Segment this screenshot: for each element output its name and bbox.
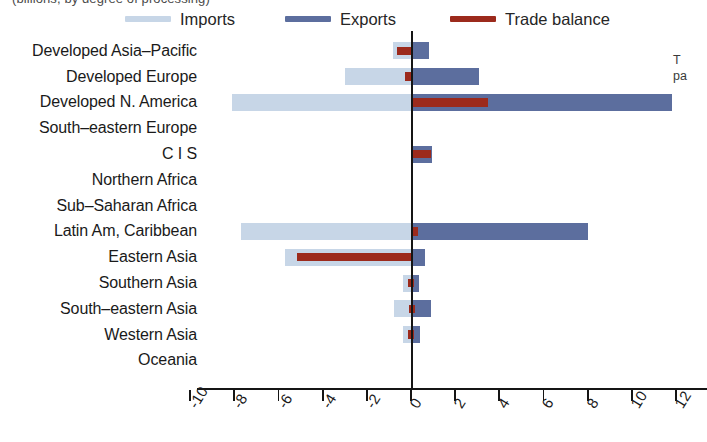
x-axis-tick-label: 8 (583, 395, 602, 411)
chart-row: Sub–Saharan Africa (0, 193, 707, 219)
legend-label-exports: Exports (340, 11, 396, 28)
legend-item-trade-balance: Trade balance (450, 11, 610, 28)
legend-swatch-trade-balance (450, 16, 496, 22)
chart-row: Western Asia (0, 322, 707, 348)
row-bars (0, 193, 707, 219)
legend-swatch-imports (125, 16, 171, 22)
row-bars (0, 348, 707, 374)
legend-item-exports: Exports (285, 11, 396, 28)
row-bars (0, 322, 707, 348)
bar-imports (345, 68, 411, 85)
chart-plot-area: Developed Asia–PacificDeveloped EuropeDe… (0, 38, 707, 390)
bar-trade-balance (397, 47, 412, 56)
chart-row: Oceania (0, 348, 707, 374)
x-axis-tick-label: 4 (494, 395, 513, 411)
chart-title-strip: (billions, by degree of processing) (0, 0, 707, 9)
chart-row: Northern Africa (0, 167, 707, 193)
zero-axis-line (411, 31, 413, 388)
row-bars (0, 64, 707, 90)
chart-row: C I S (0, 141, 707, 167)
row-bars (0, 270, 707, 296)
row-bars (0, 38, 707, 64)
row-bars (0, 296, 707, 322)
chart-row: South–eastern Asia (0, 296, 707, 322)
row-bars (0, 244, 707, 270)
row-bars (0, 90, 707, 116)
chart-row: Developed N. America (0, 90, 707, 116)
chart-title: (billions, by degree of processing) (12, 0, 210, 6)
bar-exports (411, 223, 588, 240)
bar-imports (241, 223, 411, 240)
legend-item-imports: Imports (125, 11, 235, 28)
x-axis-tick-label: 0 (406, 395, 425, 411)
side-annotation: Tpa (671, 52, 707, 92)
bar-imports (232, 94, 411, 111)
row-bars (0, 167, 707, 193)
x-axis-tick-label: 2 (450, 395, 469, 411)
legend-swatch-exports (285, 16, 331, 22)
legend-label-trade-balance: Trade balance (505, 11, 610, 28)
row-bars (0, 219, 707, 245)
bar-trade-balance (297, 253, 412, 262)
row-bars (0, 115, 707, 141)
row-bars (0, 141, 707, 167)
chart-legend: Imports Exports Trade balance (0, 9, 707, 35)
x-axis-tick-label: -8 (229, 391, 250, 411)
chart-row: Eastern Asia (0, 244, 707, 270)
bar-exports (411, 42, 429, 59)
chart-row: Latin Am, Caribbean (0, 219, 707, 245)
x-axis-tick-label: 6 (538, 395, 557, 411)
bar-trade-balance (411, 98, 488, 107)
legend-label-imports: Imports (180, 11, 235, 28)
bar-exports (411, 68, 479, 85)
chart-row: Southern Asia (0, 270, 707, 296)
chart-row: Developed Asia–Pacific (0, 38, 707, 64)
chart-row: South–eastern Europe (0, 115, 707, 141)
side-annotation-text: Tpa (673, 52, 687, 84)
chart-row: Developed Europe (0, 64, 707, 90)
bar-trade-balance (411, 150, 431, 159)
chart-rows: Developed Asia–PacificDeveloped EuropeDe… (0, 38, 707, 373)
